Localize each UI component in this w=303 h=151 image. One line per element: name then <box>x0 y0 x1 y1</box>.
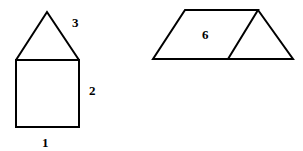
prism-figure <box>153 10 293 59</box>
triangle-shape <box>228 10 293 59</box>
triangle-roof-shape <box>16 12 79 60</box>
label-roof: 3 <box>72 15 79 30</box>
label-bottom-side: 1 <box>42 135 49 150</box>
square-shape <box>16 60 79 127</box>
label-right-side: 2 <box>89 83 96 98</box>
label-face: 6 <box>202 27 209 42</box>
house-figure <box>16 12 79 127</box>
diagram-canvas: 3 2 1 6 <box>0 0 303 151</box>
